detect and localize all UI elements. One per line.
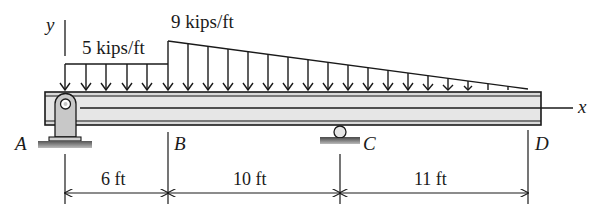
uniform-load-label: 5 kips/ft: [82, 37, 145, 59]
beam-diagram-svg: [0, 0, 602, 216]
beam-diagram: y x 5 kips/ft 9 kips/ft A B C D 6 ft 10 …: [0, 0, 602, 216]
linear-load: [163, 41, 528, 90]
roller-support-c: [320, 126, 360, 144]
uniform-load: [60, 64, 168, 90]
point-c-label: C: [363, 133, 376, 155]
point-d-label: D: [535, 133, 549, 155]
dimension-ab-label: 6 ft: [101, 169, 126, 190]
y-axis-label: y: [46, 14, 54, 36]
point-a-label: A: [15, 133, 27, 155]
x-axis-label: x: [578, 96, 586, 118]
point-b-label: B: [174, 133, 186, 155]
linear-load-label: 9 kips/ft: [171, 11, 234, 33]
dimension-bc-label: 10 ft: [233, 169, 267, 190]
load-arrows-uniform: [60, 64, 152, 90]
dimension-cd-label: 11 ft: [414, 169, 447, 190]
